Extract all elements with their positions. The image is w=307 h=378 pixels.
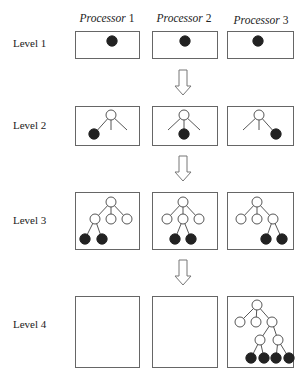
processor-headers: Processor 1 Processor 2 Processor 3	[79, 12, 289, 26]
processor-3-header: Processor 3	[233, 14, 289, 26]
filled-node	[186, 234, 196, 244]
open-node	[90, 214, 100, 224]
level-3-label: Level 3	[13, 214, 47, 226]
open-node	[252, 197, 262, 207]
open-node	[235, 317, 245, 327]
level-2-label: Level 2	[13, 119, 46, 131]
filled-node	[253, 36, 263, 46]
level-4-processor-2-box	[153, 297, 218, 368]
open-node	[106, 197, 116, 207]
filled-node	[97, 234, 107, 244]
open-node	[122, 214, 132, 224]
open-node	[106, 214, 116, 224]
open-node	[106, 110, 116, 120]
filled-node	[170, 234, 180, 244]
level-1-label: Level 1	[13, 37, 46, 49]
open-node	[251, 317, 261, 327]
filled-node	[89, 129, 99, 139]
filled-node	[246, 353, 256, 363]
processor-2-header: Processor 2	[156, 12, 212, 24]
level-1-processor-3-tree	[253, 36, 263, 46]
open-node	[179, 110, 189, 120]
level-labels: Level 1 Level 2 Level 3 Level 4	[13, 37, 47, 330]
down-arrow-icon	[175, 156, 191, 181]
open-node	[268, 214, 278, 224]
open-node	[162, 214, 172, 224]
hierarchy-diagram: Processor 1 Processor 2 Processor 3 Leve…	[0, 0, 307, 378]
filled-node	[271, 353, 281, 363]
processor-1-header: Processor 1	[79, 12, 135, 24]
filled-node	[107, 36, 117, 46]
level-1-processor-1-tree	[107, 36, 117, 46]
open-node	[178, 197, 188, 207]
open-node	[254, 110, 264, 120]
filled-node	[80, 234, 90, 244]
open-node	[267, 317, 277, 327]
filled-node	[259, 353, 269, 363]
level-1-processor-2-tree	[180, 36, 190, 46]
filled-node	[271, 129, 281, 139]
filled-node	[277, 234, 287, 244]
open-node	[194, 214, 204, 224]
open-node	[255, 335, 265, 345]
level-4-label: Level 4	[13, 318, 47, 330]
filled-node	[179, 129, 189, 139]
open-node	[178, 214, 188, 224]
filled-node	[180, 36, 190, 46]
filled-node	[261, 234, 271, 244]
down-arrows	[175, 70, 191, 285]
filled-node	[284, 353, 294, 363]
open-node	[236, 214, 246, 224]
level-4-processor-1-box	[76, 297, 140, 368]
open-node	[252, 214, 262, 224]
level-1-processor-1-box	[76, 32, 140, 59]
down-arrow-icon	[175, 70, 191, 95]
down-arrow-icon	[175, 260, 191, 285]
open-node	[252, 300, 262, 310]
open-node	[273, 335, 283, 345]
